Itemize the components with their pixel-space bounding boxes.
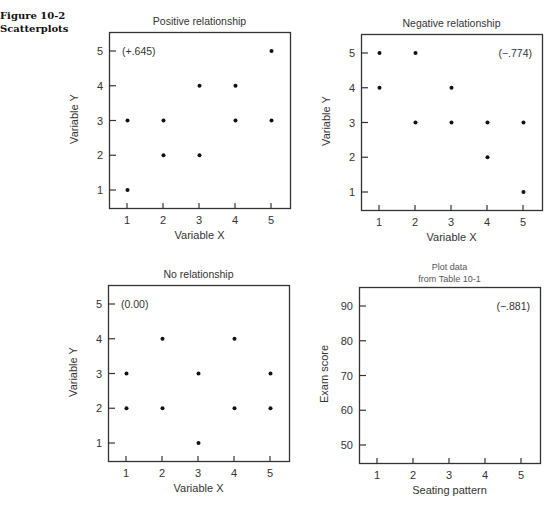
y-tick-label: 3 [97, 115, 103, 127]
x-tick-label: 4 [232, 214, 238, 226]
chart-title: No relationship [108, 268, 289, 280]
y-tick-label: 5 [97, 45, 103, 57]
y-tick-label: 3 [349, 117, 355, 129]
data-point [522, 121, 526, 125]
plot-frame [110, 33, 291, 209]
y-tick-label: 4 [349, 82, 355, 94]
data-point [234, 119, 238, 123]
data-point [269, 406, 273, 410]
data-point [486, 155, 490, 159]
data-point [233, 337, 237, 341]
x-tick-label: 4 [231, 467, 237, 479]
chart-title: Negative relationship [361, 17, 542, 29]
data-point [450, 121, 454, 125]
y-tick-label: 2 [97, 149, 103, 161]
y-tick-label: 4 [96, 333, 102, 345]
data-point [162, 119, 166, 123]
y-axis-label: Variable Y [68, 69, 80, 169]
y-tick-label: 90 [341, 300, 353, 312]
y-tick-label: 70 [341, 370, 353, 382]
data-point [269, 372, 273, 376]
data-point [414, 121, 418, 125]
data-point [270, 119, 274, 123]
data-point [198, 84, 202, 88]
data-point [126, 119, 130, 123]
correlation-annotation: (+.645) [122, 45, 156, 57]
x-tick-label: 3 [446, 469, 452, 481]
x-tick-label: 3 [196, 214, 202, 226]
data-point [125, 372, 129, 376]
data-point [126, 188, 130, 192]
x-tick-label: 2 [160, 214, 166, 226]
x-tick-label: 5 [267, 467, 273, 479]
data-point [161, 406, 165, 410]
x-tick-label: 2 [159, 467, 165, 479]
data-point [234, 84, 238, 88]
x-tick-label: 4 [482, 469, 488, 481]
chart-title: Positive relationship [109, 15, 290, 27]
data-point [486, 121, 490, 125]
x-tick-label: 5 [518, 469, 524, 481]
y-tick-label: 50 [341, 439, 353, 451]
plot-frame [360, 288, 541, 464]
y-tick-label: 1 [96, 437, 102, 449]
x-tick-label: 5 [520, 216, 526, 228]
x-tick-label: 3 [448, 216, 454, 228]
x-axis-label: Variable X [109, 229, 290, 241]
x-tick-label: 3 [195, 467, 201, 479]
data-point [270, 49, 274, 53]
plot-area: 1234512345(0.00) [108, 285, 290, 462]
y-tick-label: 3 [96, 368, 102, 380]
y-tick-label: 4 [97, 80, 103, 92]
chart-title-line: from Table 10-1 [359, 273, 540, 285]
plot-area: 1234512345(+.645) [109, 32, 291, 209]
x-tick-label: 1 [374, 469, 380, 481]
figure-label: Figure 10-2 Scatterplots [0, 9, 68, 35]
y-tick-label: 60 [341, 404, 353, 416]
data-point [522, 190, 526, 194]
chart-title-line: Plot data [359, 261, 540, 273]
y-axis-label: Exam score [318, 324, 330, 424]
correlation-annotation: (−.881) [496, 300, 530, 312]
x-axis-label: Seating pattern [359, 484, 540, 496]
correlation-annotation: (−.774) [498, 47, 532, 59]
correlation-annotation: (0.00) [121, 298, 148, 310]
x-tick-label: 1 [124, 214, 130, 226]
y-axis-label: Variable Y [67, 322, 79, 422]
y-tick-label: 2 [96, 402, 102, 414]
data-point [197, 441, 201, 445]
figure-caption: Scatterplots [0, 22, 68, 35]
x-axis-label: Variable X [108, 482, 289, 494]
y-tick-label: 5 [96, 298, 102, 310]
x-tick-label: 4 [484, 216, 490, 228]
x-tick-label: 2 [410, 469, 416, 481]
y-tick-label: 1 [97, 184, 103, 196]
x-tick-label: 2 [412, 216, 418, 228]
data-point [378, 86, 382, 90]
y-tick-label: 1 [349, 186, 355, 198]
y-tick-label: 2 [349, 151, 355, 163]
chart-title: Plot datafrom Table 10-1 [359, 261, 540, 285]
y-tick-label: 5 [349, 47, 355, 59]
data-point [162, 153, 166, 157]
plot-area: 1234512345(−.774) [361, 34, 543, 211]
y-tick-label: 80 [341, 335, 353, 347]
y-axis-label: Variable Y [320, 71, 332, 171]
data-point [198, 153, 202, 157]
x-tick-label: 1 [376, 216, 382, 228]
data-point [450, 86, 454, 90]
data-point [414, 51, 418, 55]
data-point [378, 51, 382, 55]
x-tick-label: 1 [123, 467, 129, 479]
data-point [161, 337, 165, 341]
data-point [233, 406, 237, 410]
plot-area: 123455060708090(−.881) [359, 287, 541, 464]
data-point [125, 406, 129, 410]
data-point [197, 372, 201, 376]
x-tick-label: 5 [268, 214, 274, 226]
figure-number: Figure 10-2 [0, 9, 68, 22]
x-axis-label: Variable X [361, 231, 542, 243]
